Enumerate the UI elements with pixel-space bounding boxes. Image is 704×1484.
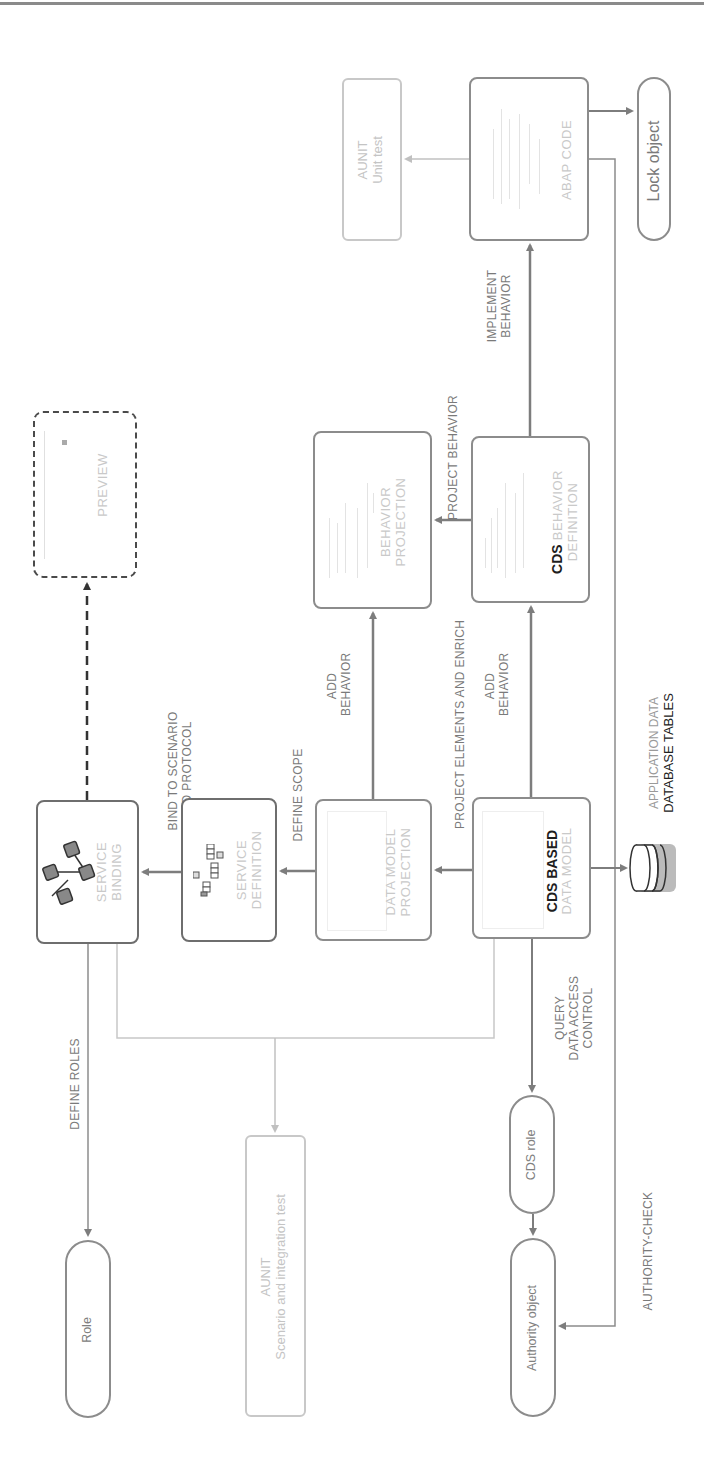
define-roles-label: DEFINE ROLES	[69, 1036, 85, 1132]
cds-based-data-model-box[interactable]: CDS BASED DATA MODEL	[472, 797, 591, 939]
project-elements-label: PROJECT ELEMENTS AND ENRICH	[454, 639, 470, 829]
service-binding-box[interactable]: SERVICE BINDING	[36, 800, 139, 944]
cds-behavior-definition-label: CDS BEHAVIOR DEFINITION	[548, 457, 584, 587]
code-preview-decoration	[489, 99, 549, 219]
cds-role-label: CDS role	[524, 1107, 540, 1203]
lock-object-label: Lock object	[645, 97, 665, 225]
preview-label: PREVIEW	[96, 445, 114, 525]
preview-marker-icon	[62, 440, 67, 445]
authority-check-label: AUTHORITY-CHECK	[642, 1176, 658, 1326]
cds-based-data-model-label: CDS BASED DATA MODEL	[544, 821, 580, 921]
aunit-scenario-label: AUNIT Scenario and integration test	[259, 1147, 295, 1407]
data-model-projection-label: DATA MODEL PROJECTION	[384, 822, 418, 922]
service-definition-label: SERVICE DEFINITION	[235, 825, 269, 915]
aunit-scenario-box[interactable]: AUNIT Scenario and integration test	[245, 1135, 306, 1417]
behavior-projection-box[interactable]: BEHAVIOR PROJECTION	[313, 431, 432, 609]
aunit-unit-test-label: AUNIT Unit test	[356, 79, 392, 242]
cds-behavior-definition-box[interactable]: CDS BEHAVIOR DEFINITION	[471, 436, 590, 603]
define-scope-label: DEFINE SCOPE	[292, 747, 308, 843]
preview-divider	[44, 431, 45, 559]
role-label: Role	[80, 1282, 96, 1378]
aunit-unit-test-box[interactable]: AUNIT Unit test	[342, 78, 402, 241]
database-tables-label: APPLICATION DATA DATABASE TABLES	[648, 681, 682, 825]
abap-code-box[interactable]: ABAP CODE	[469, 77, 589, 241]
service-definition-box[interactable]: SERVICE DEFINITION	[181, 798, 277, 942]
data-model-preview-frame	[482, 811, 544, 929]
implement-behavior-label: IMPLEMENT BEHAVIOR	[486, 256, 518, 356]
data-model-projection-box[interactable]: DATA MODEL PROJECTION	[315, 799, 432, 941]
lock-object-pill[interactable]: Lock object	[637, 77, 671, 241]
cds-role-pill[interactable]: CDS role	[509, 1095, 555, 1214]
add-behavior-label-1: ADD BEHAVIOR	[326, 656, 358, 716]
database-icon	[628, 842, 682, 896]
preview-box[interactable]: PREVIEW	[33, 411, 137, 578]
behavior-projection-label: BEHAVIOR PROJECTION	[379, 472, 413, 572]
query-data-access-control-label: QUERY DATA ACCESS CONTROL	[554, 970, 602, 1066]
abap-code-label: ABAP CODE	[560, 100, 578, 220]
code-preview-decoration	[483, 468, 533, 578]
authority-object-label: Authority object	[525, 1264, 541, 1392]
authority-object-pill[interactable]: Authority object	[510, 1238, 556, 1417]
add-behavior-label-2: ADD BEHAVIOR	[484, 656, 516, 716]
service-binding-label: SERVICE BINDING	[95, 832, 129, 912]
service-binding-network-icon	[42, 838, 98, 908]
role-pill[interactable]: Role	[65, 1240, 111, 1418]
project-behavior-label: PROJECT BEHAVIOR	[447, 400, 463, 520]
projection-preview-frame	[327, 811, 387, 931]
service-definition-tree-icon	[193, 844, 229, 904]
